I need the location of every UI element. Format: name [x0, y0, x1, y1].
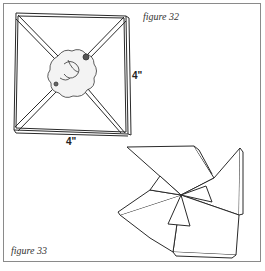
figure-32-caption: figure 32	[143, 11, 179, 22]
figure-33-caption: figure 33	[11, 245, 47, 256]
width-dimension-label: 4"	[66, 136, 76, 147]
figure-33-drawing	[0, 0, 265, 271]
height-dimension-label: 4"	[132, 70, 142, 81]
